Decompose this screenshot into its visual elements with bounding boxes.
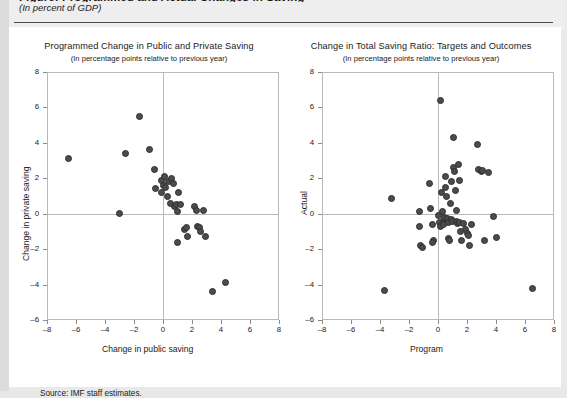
- figure-source-note: Source: IMF staff estimates.: [40, 389, 142, 398]
- right-data-point: [447, 200, 454, 207]
- right-x-tick-label: –6: [336, 325, 366, 334]
- right-data-point: [446, 237, 453, 244]
- right-data-point: [456, 177, 463, 184]
- left-y-tick: [43, 285, 47, 286]
- page-left-margin-strip: [0, 0, 9, 391]
- right-x-tick: [525, 320, 526, 324]
- left-data-point: [209, 288, 216, 295]
- right-chart-title: Change in Total Saving Ratio: Targets an…: [281, 41, 561, 51]
- right-data-point: [493, 234, 500, 241]
- left-y-tick-label: 2: [15, 173, 39, 182]
- right-y-tick: [318, 72, 322, 73]
- left-y-tick: [43, 107, 47, 108]
- left-x-tick: [221, 320, 222, 324]
- right-data-point: [448, 178, 455, 185]
- right-data-point: [453, 207, 460, 214]
- left-x-tick: [279, 320, 280, 324]
- left-x-tick-label: 6: [235, 325, 265, 334]
- right-x-tick: [438, 320, 439, 324]
- right-data-point: [452, 187, 459, 194]
- left-x-tick-label: –2: [119, 325, 149, 334]
- right-data-point: [451, 168, 458, 175]
- right-x-axis-title: Program: [410, 344, 443, 354]
- right-data-point: [481, 237, 488, 244]
- left-y-tick: [43, 249, 47, 250]
- right-y-tick: [318, 143, 322, 144]
- left-chart-subtitle: (In percentage points relative to previo…: [9, 54, 289, 63]
- left-x-tick-label: 8: [264, 325, 294, 334]
- right-y-tick: [318, 178, 322, 179]
- right-x-tick-label: 4: [481, 325, 511, 334]
- right-y-tick: [318, 285, 322, 286]
- right-data-point: [485, 169, 492, 176]
- left-y-tick: [43, 143, 47, 144]
- right-data-point: [443, 193, 450, 200]
- left-y-tick-label: 4: [15, 138, 39, 147]
- left-x-tick-label: –4: [90, 325, 120, 334]
- right-y-tick: [318, 320, 322, 321]
- right-data-point: [419, 244, 426, 251]
- right-data-point: [429, 239, 436, 246]
- left-data-point: [200, 207, 207, 214]
- left-y-tick-label: –2: [15, 244, 39, 253]
- right-x-tick: [409, 320, 410, 324]
- left-data-point: [164, 193, 171, 200]
- right-vertical-zero-line: [438, 72, 439, 320]
- right-x-tick: [467, 320, 468, 324]
- right-data-point: [474, 141, 481, 148]
- right-y-tick: [318, 249, 322, 250]
- left-x-tick: [250, 320, 251, 324]
- left-data-point: [202, 233, 209, 240]
- left-x-tick-label: –6: [61, 325, 91, 334]
- left-y-tick-label: –6: [15, 315, 39, 324]
- left-x-tick: [76, 320, 77, 324]
- right-data-point: [529, 285, 536, 292]
- left-horizontal-zero-line: [47, 214, 279, 215]
- left-x-tick: [47, 320, 48, 324]
- left-x-tick: [163, 320, 164, 324]
- left-y-tick-label: 6: [15, 102, 39, 111]
- left-y-tick-label: –4: [15, 280, 39, 289]
- right-y-tick-label: 6: [290, 102, 314, 111]
- right-x-tick: [496, 320, 497, 324]
- right-x-tick-label: 0: [423, 325, 453, 334]
- left-x-axis-title: Change in public saving: [102, 344, 193, 354]
- right-x-tick-label: –4: [365, 325, 395, 334]
- right-x-tick-label: 8: [539, 325, 567, 334]
- right-chart-subtitle: (In percentage points relative to previo…: [281, 54, 561, 63]
- left-data-point: [174, 239, 181, 246]
- right-data-point: [455, 161, 462, 168]
- figure-body-panel: Programmed Change in Public and Private …: [9, 27, 561, 387]
- left-y-tick-label: 0: [15, 209, 39, 218]
- right-data-point: [490, 213, 497, 220]
- right-data-point: [458, 237, 465, 244]
- figure-subtitle: (In percent of GDP): [19, 2, 101, 13]
- right-x-tick-label: 6: [510, 325, 540, 334]
- right-data-point: [468, 221, 475, 228]
- right-x-tick: [380, 320, 381, 324]
- right-y-tick-label: 8: [290, 67, 314, 76]
- left-y-tick: [43, 72, 47, 73]
- right-y-tick-label: 2: [290, 173, 314, 182]
- right-x-tick-label: 2: [452, 325, 482, 334]
- right-x-tick-label: –8: [307, 325, 337, 334]
- left-y-tick: [43, 214, 47, 215]
- left-x-tick: [134, 320, 135, 324]
- left-data-point: [151, 166, 158, 173]
- right-x-tick: [351, 320, 352, 324]
- left-data-point: [193, 207, 200, 214]
- left-chart-title: Programmed Change in Public and Private …: [9, 41, 289, 51]
- right-y-tick-label: –2: [290, 244, 314, 253]
- left-y-tick-label: 8: [15, 67, 39, 76]
- left-x-tick-label: 0: [148, 325, 178, 334]
- right-y-tick-label: –4: [290, 280, 314, 289]
- right-y-tick: [318, 107, 322, 108]
- right-data-point: [416, 223, 423, 230]
- left-data-point: [170, 180, 177, 187]
- right-x-tick: [554, 320, 555, 324]
- right-y-tick-label: 4: [290, 138, 314, 147]
- right-x-tick: [322, 320, 323, 324]
- left-x-tick-label: –8: [32, 325, 62, 334]
- left-data-point: [122, 150, 129, 157]
